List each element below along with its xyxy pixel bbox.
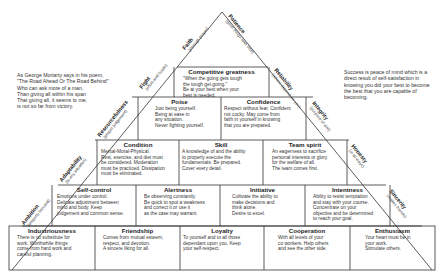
block-title: Friendship [95, 227, 180, 235]
block-title: Alertness [136, 186, 220, 194]
success-definition: Success is peace of mind which is a dire… [344, 69, 430, 100]
block-description: Comes from mutual esteem, respect, and d… [95, 235, 180, 252]
moriarty-quote: As George Moriarty says in his poem, "Th… [17, 72, 109, 110]
block-initiative: Initiative Cultivate the ability to make… [220, 186, 305, 226]
block-title: Industriousness [9, 227, 95, 235]
block-condition: Condition Mental-Moral-Physical. Rest, e… [97, 141, 179, 185]
block-poise: Poise Just being yourself. Being at ease… [138, 98, 221, 140]
block-team-spirit: Team spirit An eagerness to sacrifice pe… [263, 141, 347, 185]
block-skill: Skill A knowledge of and the ability to … [179, 141, 263, 185]
block-description: An eagerness to sacrifice personal inter… [263, 149, 347, 171]
block-description: There is no substitute for work. Worthwh… [9, 235, 95, 257]
block-competitive-greatness: Competitive greatness "When the going ge… [174, 68, 269, 97]
block-title: Condition [97, 141, 179, 149]
block-industriousness: Industriousness There is no substitute f… [9, 227, 95, 270]
block-intentness: Intentness Ability to resist temptation … [305, 186, 390, 226]
block-description: Ability to resist temptation and stay wi… [305, 194, 390, 222]
block-title: Enthusiasm [350, 227, 435, 235]
block-friendship: Friendship Comes from mutual esteem, res… [95, 227, 180, 270]
block-description: Mental-Moral-Physical. Rest, exercise, a… [97, 149, 179, 177]
block-enthusiasm: Enthusiasm Your heart must be in your wo… [350, 227, 435, 270]
block-title: Initiative [220, 186, 305, 194]
block-title: Team spirit [263, 141, 347, 149]
block-description: Respect without fear. Confident not cock… [221, 106, 306, 128]
block-title: Loyalty [180, 227, 264, 235]
block-description: A knowledge of and the ability to proper… [179, 149, 263, 171]
block-title: Self-control [52, 186, 136, 194]
block-loyalty: Loyalty To yourself and to all those dep… [180, 227, 264, 270]
block-description: Be observing constantly. Be quick to spo… [136, 194, 220, 216]
block-title: Cooperation [264, 227, 350, 235]
block-title: Intentness [305, 186, 390, 194]
block-description: Cultivate the ability to make decisions … [220, 194, 305, 216]
block-description: To yourself and to all those dependant u… [180, 235, 264, 252]
block-alertness: Alertness Be observing constantly. Be qu… [136, 186, 220, 226]
block-description: "When the going gets tough the tough get… [174, 76, 269, 97]
block-description: With all levels of your co workers. Help… [264, 235, 350, 252]
block-description: Just being yourself. Being at ease in an… [138, 106, 221, 128]
block-title: Skill [179, 141, 263, 149]
block-title: Poise [138, 98, 221, 106]
block-description: Your heart must be in your work. Stimula… [350, 235, 435, 252]
block-description: Emotions under control. Delicate adjustm… [52, 194, 136, 216]
block-self-control: Self-control Emotions under control. Del… [52, 186, 136, 226]
block-cooperation: Cooperation With all levels of your co w… [264, 227, 350, 270]
block-title: Competitive greatness [174, 68, 269, 76]
